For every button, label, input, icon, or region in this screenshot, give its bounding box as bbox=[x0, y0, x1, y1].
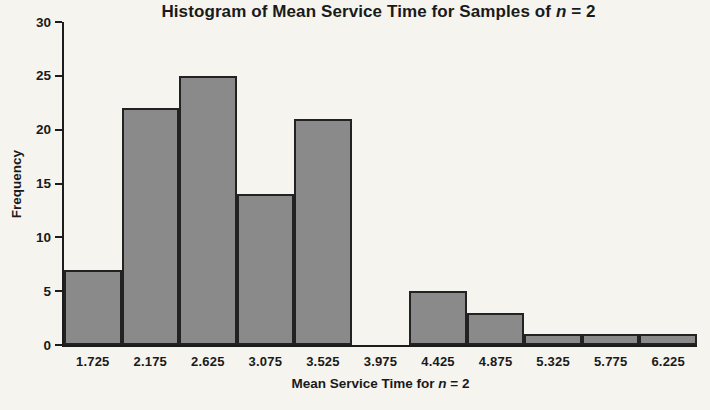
x-axis-title: Mean Service Time for n = 2 bbox=[64, 376, 697, 391]
histogram-figure: Histogram of Mean Service Time for Sampl… bbox=[0, 0, 710, 410]
plot-area: 051015202530 1.7252.1752.6253.0753.5253.… bbox=[62, 22, 697, 347]
x-tick-label-4.425: 4.425 bbox=[409, 354, 467, 369]
x-axis-title-suffix: = 2 bbox=[447, 376, 470, 391]
x-tick-label-5.775: 5.775 bbox=[582, 354, 640, 369]
y-tick-label-15: 15 bbox=[36, 177, 51, 191]
histogram-bar-4.875 bbox=[467, 313, 525, 345]
x-tick-label-2.175: 2.175 bbox=[122, 354, 180, 369]
y-tick-label-5: 5 bbox=[43, 284, 51, 298]
histogram-bar-4.425 bbox=[409, 291, 467, 345]
chart-title: Histogram of Mean Service Time for Sampl… bbox=[62, 2, 695, 22]
x-tick-label-3.075: 3.075 bbox=[237, 354, 295, 369]
y-tick-label-0: 0 bbox=[43, 338, 51, 352]
chart-title-italic-n: n bbox=[556, 2, 566, 21]
y-tick-mark-30 bbox=[55, 21, 62, 23]
y-tick-mark-20 bbox=[55, 129, 62, 131]
histogram-bar-6.225 bbox=[639, 334, 697, 345]
histogram-bar-5.775 bbox=[582, 334, 640, 345]
histogram-bar-1.725 bbox=[64, 270, 122, 345]
x-tick-label-3.525: 3.525 bbox=[294, 354, 352, 369]
x-tick-label-6.225: 6.225 bbox=[639, 354, 697, 369]
x-tick-label-1.725: 1.725 bbox=[64, 354, 122, 369]
y-tick-mark-25 bbox=[55, 75, 62, 77]
y-tick-label-25: 25 bbox=[36, 69, 51, 83]
x-tick-label-2.625: 2.625 bbox=[179, 354, 237, 369]
y-tick-mark-15 bbox=[55, 183, 62, 185]
x-axis-title-prefix: Mean Service Time for bbox=[292, 376, 439, 391]
y-tick-label-30: 30 bbox=[36, 15, 51, 29]
histogram-bar-3.525 bbox=[294, 119, 352, 345]
chart-title-suffix: = 2 bbox=[566, 2, 595, 21]
x-tick-label-5.325: 5.325 bbox=[524, 354, 582, 369]
y-tick-mark-0 bbox=[55, 344, 62, 346]
y-tick-mark-5 bbox=[55, 290, 62, 292]
x-axis-title-italic-n: n bbox=[438, 376, 446, 391]
chart-title-prefix: Histogram of Mean Service Time for Sampl… bbox=[161, 2, 555, 21]
y-tick-label-10: 10 bbox=[36, 231, 51, 245]
histogram-bar-5.325 bbox=[524, 334, 582, 345]
y-tick-mark-10 bbox=[55, 236, 62, 238]
x-tick-label-3.975: 3.975 bbox=[352, 354, 410, 369]
histogram-bar-3.075 bbox=[237, 194, 295, 345]
y-axis-title: Frequency bbox=[9, 150, 24, 218]
histogram-bar-2.175 bbox=[122, 108, 180, 345]
x-tick-label-4.875: 4.875 bbox=[467, 354, 525, 369]
histogram-bar-2.625 bbox=[179, 76, 237, 345]
y-tick-label-20: 20 bbox=[36, 123, 51, 137]
